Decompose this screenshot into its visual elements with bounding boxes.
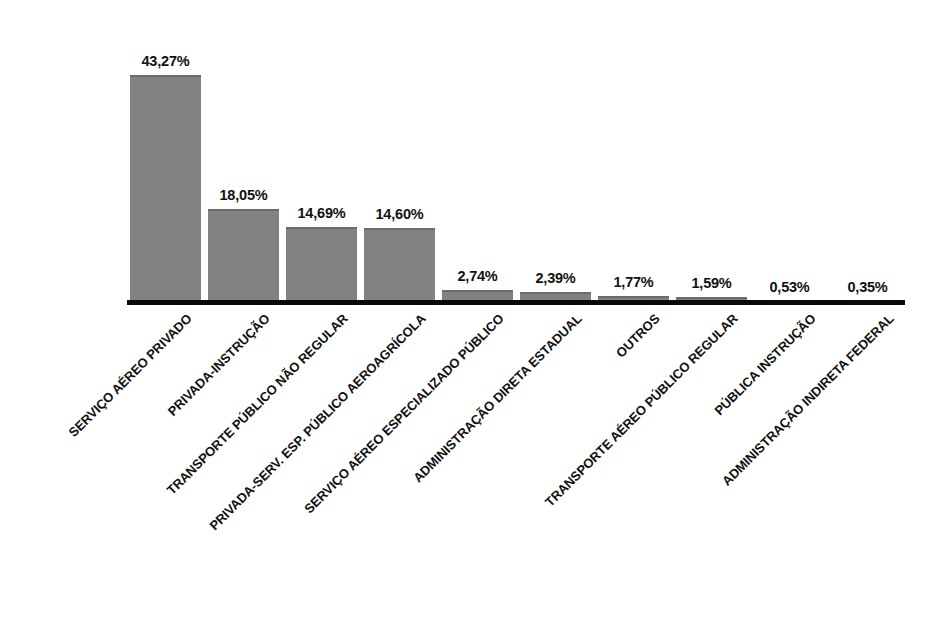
bar-value-label: 2,74%	[457, 268, 497, 284]
bar-value-label: 14,69%	[298, 205, 346, 221]
category-label: SERVIÇO AÉREO PRIVADO	[0, 311, 194, 635]
bar-group: 14,60%	[364, 55, 435, 305]
bar-group: 14,69%	[286, 55, 357, 305]
bar-group: 2,39%	[520, 55, 591, 305]
bar-group: 2,74%	[442, 55, 513, 305]
bar-group: 1,59%	[676, 55, 747, 305]
bar-value-label: 18,05%	[220, 187, 268, 203]
bar-value-label: 1,59%	[691, 275, 731, 291]
bar[interactable]	[364, 228, 435, 305]
bar[interactable]	[286, 227, 357, 305]
bar[interactable]	[208, 209, 279, 305]
bar-value-label: 1,77%	[613, 274, 653, 290]
bar-value-label: 2,39%	[535, 270, 575, 286]
bar-chart: 43,27%18,05%14,69%14,60%2,74%2,39%1,77%1…	[0, 0, 935, 635]
bar-value-label: 14,60%	[376, 206, 424, 222]
bar-group: 18,05%	[208, 55, 279, 305]
bar-group: 43,27%	[130, 55, 201, 305]
bar-value-label: 0,35%	[847, 279, 887, 295]
bar-value-label: 0,53%	[769, 279, 809, 295]
category-axis-labels: SERVIÇO AÉREO PRIVADOPRIVADA-INSTRUÇÃOTR…	[0, 305, 935, 635]
plot-area: 43,27%18,05%14,69%14,60%2,74%2,39%1,77%1…	[0, 0, 935, 305]
bar-group: 1,77%	[598, 55, 669, 305]
bar-group: 0,35%	[832, 55, 903, 305]
bar-value-label: 43,27%	[142, 53, 190, 69]
bar-group: 0,53%	[754, 55, 825, 305]
bar[interactable]	[130, 75, 201, 305]
